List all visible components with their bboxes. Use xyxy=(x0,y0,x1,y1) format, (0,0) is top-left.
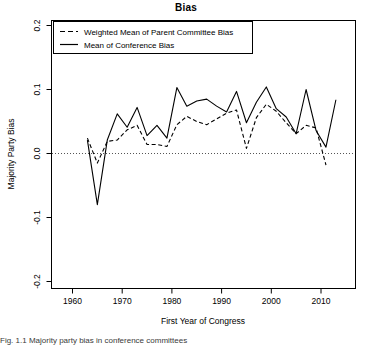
bias-line-chart: 0.2 0.1 0.0 -0.1 -0.2 1960 1970 1980 199… xyxy=(0,0,372,345)
x-axis-tick-labels: 1960 1970 1980 1990 2000 2010 xyxy=(63,296,331,306)
y-axis-title: Majority Party Bias xyxy=(6,119,16,190)
y-tick-label: -0.1 xyxy=(32,210,42,225)
chart-legend: Weighted Mean of Parent Committee Bias M… xyxy=(54,22,253,54)
y-axis-tick-labels: 0.2 0.1 0.0 -0.1 -0.2 xyxy=(32,19,42,289)
y-tick-label: 0.1 xyxy=(32,83,42,95)
x-tick-label: 1980 xyxy=(162,296,181,306)
figure-caption-partial: Fig. 1.1 Majority party bias in conferen… xyxy=(0,336,372,345)
y-tick-label: 0.0 xyxy=(32,147,42,159)
y-tick-label: 0.2 xyxy=(32,19,42,31)
series-line-weighted-mean-parent-committee-bias xyxy=(87,104,326,165)
figure-container: Bias 0.2 0.1 0.0 -0.1 -0.2 xyxy=(0,0,372,345)
x-tick-label: 1990 xyxy=(212,296,231,306)
legend-label-parent-committee: Weighted Mean of Parent Committee Bias xyxy=(84,28,233,37)
series-line-mean-of-conference-bias xyxy=(87,87,336,205)
y-axis-ticks xyxy=(47,26,52,282)
y-tick-label: -0.2 xyxy=(32,274,42,289)
x-tick-label: 1960 xyxy=(63,296,82,306)
x-axis-ticks xyxy=(73,289,322,294)
plot-panel-border xyxy=(52,21,356,289)
x-tick-label: 1970 xyxy=(113,296,132,306)
x-tick-label: 2000 xyxy=(262,296,281,306)
x-axis-title: First Year of Congress xyxy=(161,316,245,326)
legend-label-conference-bias: Mean of Conference Bias xyxy=(84,41,174,50)
x-tick-label: 2010 xyxy=(312,296,331,306)
